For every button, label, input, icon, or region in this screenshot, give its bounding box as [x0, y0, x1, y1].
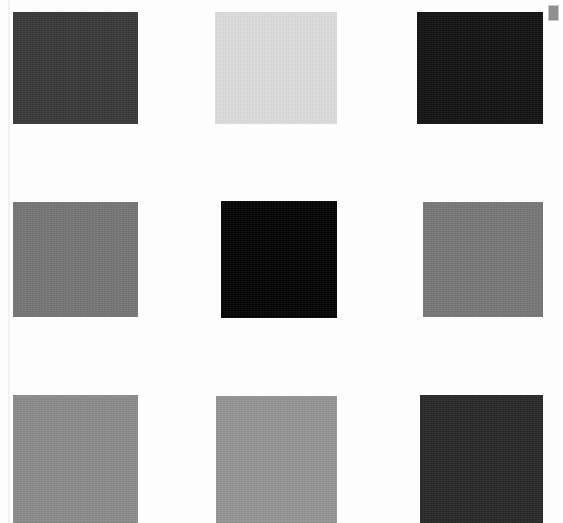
color-swatch-texture	[221, 201, 337, 318]
page-edge-rule	[8, 0, 10, 523]
color-swatch-r3c2	[216, 396, 337, 523]
color-swatch-r3c3	[420, 395, 543, 523]
swatch-grid-canvas	[0, 0, 563, 523]
color-swatch-texture	[215, 12, 337, 124]
color-swatch-texture	[216, 396, 337, 523]
color-swatch-texture	[13, 202, 138, 317]
color-swatch-r1c3	[417, 12, 543, 124]
color-swatch-r2c1	[13, 202, 138, 317]
color-swatch-texture	[417, 12, 543, 124]
color-swatch-texture	[420, 395, 543, 523]
color-swatch-texture	[423, 202, 543, 317]
color-swatch-texture	[13, 12, 138, 124]
page-corner-marker	[548, 5, 559, 21]
color-swatch-r3c1	[13, 395, 138, 523]
color-swatch-r1c2	[215, 12, 337, 124]
color-swatch-r1c1	[13, 12, 138, 124]
color-swatch-r2c3	[423, 202, 543, 317]
color-swatch-r2c2	[221, 201, 337, 318]
color-swatch-texture	[13, 395, 138, 523]
